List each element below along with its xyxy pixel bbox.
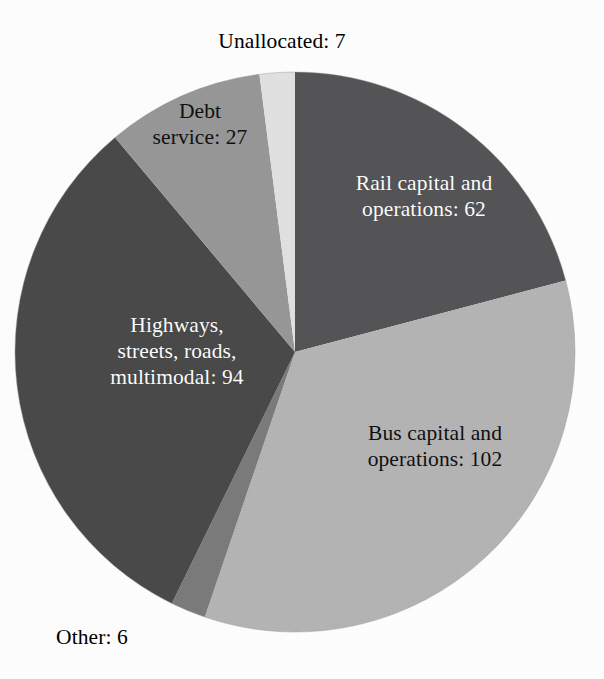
slice-label-other: Other: 6 xyxy=(56,624,256,650)
slice-label-rail-capital-and-operations: Rail capital and operations: 62 xyxy=(324,170,524,222)
slice-label-bus-capital-and-operations: Bus capital and operations: 102 xyxy=(330,420,540,472)
pie-chart: Rail capital and operations: 62 Bus capi… xyxy=(0,0,604,679)
slice-label-highways-streets-roads-multimodal: Highways, streets, roads, multimodal: 94 xyxy=(66,312,288,391)
slice-label-debt-service: Debt service: 27 xyxy=(112,98,288,150)
slice-label-unallocated: Unallocated: 7 xyxy=(152,28,412,54)
